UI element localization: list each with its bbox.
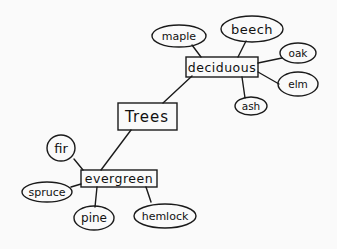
node-spruce-label: spruce [28,186,65,199]
edge-trees-deciduous [163,76,192,103]
edge-evergreen-spruce [71,184,81,187]
node-pine-label: pine [81,211,107,225]
node-deciduous-label: deciduous [188,60,256,75]
edge-evergreen-pine [95,187,97,207]
node-hemlock-label: hemlock [142,210,189,223]
edge-deciduous-beech [238,41,246,57]
edge-evergreen-hemlock [146,187,151,202]
edge-deciduous-ash [242,77,245,98]
diagram-canvas: Trees deciduous evergreen maple beech oa… [0,0,337,249]
node-beech-label: beech [231,22,273,37]
edge-deciduous-maple [192,45,201,57]
node-trees-label: Trees [124,108,169,126]
node-evergreen-label: evergreen [85,171,153,186]
node-ash-label: ash [242,100,261,112]
node-oak-label: oak [289,47,309,59]
edge-deciduous-elm [258,72,279,84]
node-fir-label: fir [54,141,68,156]
edge-evergreen-fir [74,159,83,170]
node-maple-label: maple [162,30,196,43]
edge-trees-evergreen [101,130,131,170]
tree-concept-map: Trees deciduous evergreen maple beech oa… [0,0,337,249]
edge-deciduous-oak [258,58,282,63]
node-elm-label: elm [288,78,308,90]
